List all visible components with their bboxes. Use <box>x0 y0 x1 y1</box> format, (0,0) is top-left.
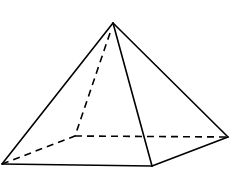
edge-apex-front-right <box>113 23 152 166</box>
edge-front-right-back-right <box>152 137 228 166</box>
edge-apex-front-left <box>2 23 113 164</box>
visible-edges <box>2 23 228 166</box>
hidden-edges <box>2 33 228 164</box>
edge-apex-back-right <box>113 23 228 137</box>
pyramid-diagram <box>0 0 237 178</box>
edge-back-left-back-right <box>75 136 228 137</box>
edge-front-left-front-right <box>2 164 152 166</box>
